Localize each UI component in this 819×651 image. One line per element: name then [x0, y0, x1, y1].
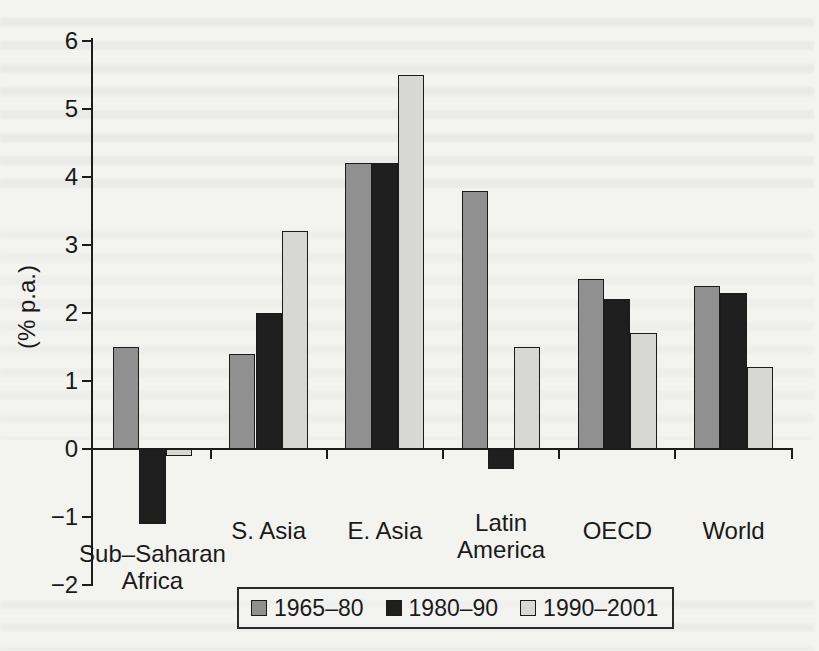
bar-1965–80-Sub–Saharan Africa: [113, 347, 139, 449]
legend-swatch-icon: [520, 600, 536, 616]
x-tick: [442, 450, 444, 459]
bar-1980–90-Sub–Saharan Africa: [139, 449, 165, 524]
x-tick: [210, 450, 212, 459]
category-label-line: World: [644, 517, 819, 544]
x-tick: [674, 450, 676, 459]
bar-1965–80-OECD: [578, 279, 604, 449]
legend-label: 1965–80: [274, 595, 364, 621]
legend-item: 1980–90: [386, 595, 499, 621]
y-tick-label: 0: [26, 434, 78, 464]
y-tick: [82, 312, 91, 314]
bar-1965–80-S. Asia: [229, 354, 255, 449]
bar-1990–2001-Latin America: [514, 347, 540, 449]
y-axis-line: [91, 38, 93, 586]
y-tick: [82, 380, 91, 382]
legend-item: 1990–2001: [520, 595, 658, 621]
bar-1990–2001-E. Asia: [398, 75, 424, 449]
y-tick: [82, 516, 91, 518]
y-tick: [82, 448, 91, 450]
legend: 1965–801980–901990–2001: [237, 587, 674, 629]
legend-swatch-icon: [386, 600, 402, 616]
x-tick: [791, 450, 793, 459]
y-tick: [82, 40, 91, 42]
bar-1980–90-E. Asia: [372, 163, 398, 449]
y-tick-label: −1: [26, 502, 78, 532]
y-tick-label: 5: [26, 94, 78, 124]
category-label-line: Africa: [63, 567, 243, 594]
bar-1980–90-OECD: [604, 299, 630, 449]
legend-item: 1965–80: [251, 595, 364, 621]
y-tick: [82, 108, 91, 110]
bar-1990–2001-OECD: [630, 333, 656, 449]
y-tick-label: 3: [26, 230, 78, 260]
x-tick: [558, 450, 560, 459]
x-tick: [326, 450, 328, 459]
bar-1965–80-Latin America: [462, 191, 488, 449]
y-tick-label: 6: [26, 26, 78, 56]
y-tick: [82, 176, 91, 178]
legend-swatch-icon: [251, 600, 267, 616]
bar-1965–80-World: [694, 286, 720, 449]
legend-label: 1990–2001: [543, 595, 658, 621]
category-label-line: Sub–Saharan: [63, 540, 243, 567]
y-tick-label: 1: [26, 366, 78, 396]
bar-1990–2001-World: [747, 367, 773, 449]
y-tick: [82, 244, 91, 246]
category-label-World: World: [644, 517, 819, 544]
bar-1980–90-Latin America: [488, 449, 514, 469]
bar-1990–2001-Sub–Saharan Africa: [166, 449, 192, 456]
category-label-Sub–Saharan Africa: Sub–SaharanAfrica: [63, 540, 243, 594]
bar-1980–90-World: [720, 293, 746, 449]
y-tick-label: 2: [26, 298, 78, 328]
bar-1980–90-S. Asia: [256, 313, 282, 449]
bar-1965–80-E. Asia: [345, 163, 371, 449]
bar-1990–2001-S. Asia: [282, 231, 308, 449]
y-tick-label: 4: [26, 162, 78, 192]
legend-label: 1980–90: [409, 595, 499, 621]
